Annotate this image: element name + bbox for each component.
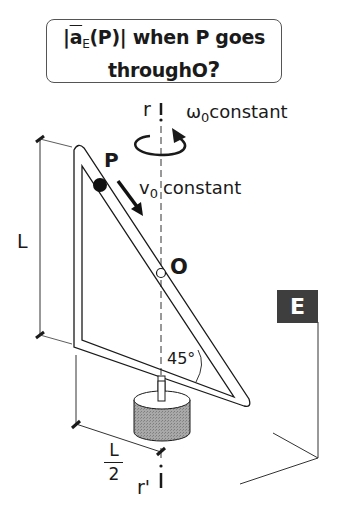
question-box: |aE(P)| when P goes throughO? <box>46 19 282 83</box>
velocity-text: constant <box>163 177 241 198</box>
cylinder-base <box>134 381 190 441</box>
frame-axes <box>240 322 318 484</box>
angle-label: 45° <box>167 349 195 368</box>
frame-e-badge: E <box>277 290 318 323</box>
abs-open: | <box>63 26 70 48</box>
velocity-symbol: v <box>139 177 150 198</box>
question-through: through <box>108 59 192 81</box>
axis-label-top: r <box>143 98 151 120</box>
question-line-2: throughO? <box>47 57 281 83</box>
omega-label: ω0constant <box>186 101 288 125</box>
length-l-label: L <box>17 230 28 252</box>
question-line-1: |aE(P)| when P goes <box>47 24 281 57</box>
omega-text: constant <box>209 101 287 122</box>
point-p-label: P <box>104 148 119 172</box>
vector-symbol: a <box>70 26 83 48</box>
half-l-numerator: L <box>106 440 122 460</box>
point-o-marker <box>157 269 166 278</box>
question-point-o: O <box>192 59 208 81</box>
velocity-label: v0constant <box>139 177 241 201</box>
half-l-denominator: 2 <box>106 464 122 484</box>
angle-arc <box>196 350 202 382</box>
point-p-marker <box>93 178 107 192</box>
point-o-label: O <box>170 255 188 279</box>
question-line-1-rest: when P goes <box>127 26 266 48</box>
fraction-bar <box>104 462 123 463</box>
omega-symbol: ω <box>186 101 201 122</box>
vector-argument: (P)| <box>89 26 126 48</box>
dimension-l <box>36 136 72 344</box>
question-mark: ? <box>207 57 219 82</box>
velocity-subscript: 0 <box>150 186 158 201</box>
axis-label-bottom: r' <box>137 476 150 498</box>
